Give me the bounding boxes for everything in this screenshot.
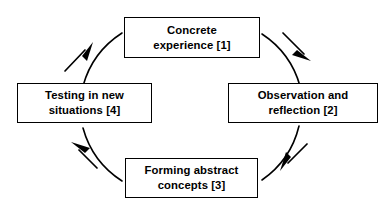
node-testing-new-situations-label: Testing in new situations [4] xyxy=(41,88,128,118)
arc-bottom-right xyxy=(262,126,299,180)
node-observation-reflection-label: Observation and reflection [2] xyxy=(254,88,353,118)
node-concrete-experience-label: Concrete experience [1] xyxy=(149,23,234,53)
arc-top-right xyxy=(262,34,300,86)
node-testing-new-situations[interactable]: Testing in new situations [4] xyxy=(17,83,152,123)
arc-bottom-left xyxy=(83,128,122,181)
node-forming-abstract-concepts-label: Forming abstract concepts [3] xyxy=(141,163,243,193)
arrow-shaft-top-right xyxy=(283,33,304,54)
node-observation-reflection[interactable]: Observation and reflection [2] xyxy=(228,83,378,123)
arrow-shaft-top-left xyxy=(65,50,85,71)
node-forming-abstract-concepts[interactable]: Forming abstract concepts [3] xyxy=(125,158,258,198)
node-concrete-experience[interactable]: Concrete experience [1] xyxy=(124,17,260,58)
arc-top-left xyxy=(83,33,122,86)
kolb-cycle-diagram: Concrete experience [1] Observation and … xyxy=(0,0,382,218)
